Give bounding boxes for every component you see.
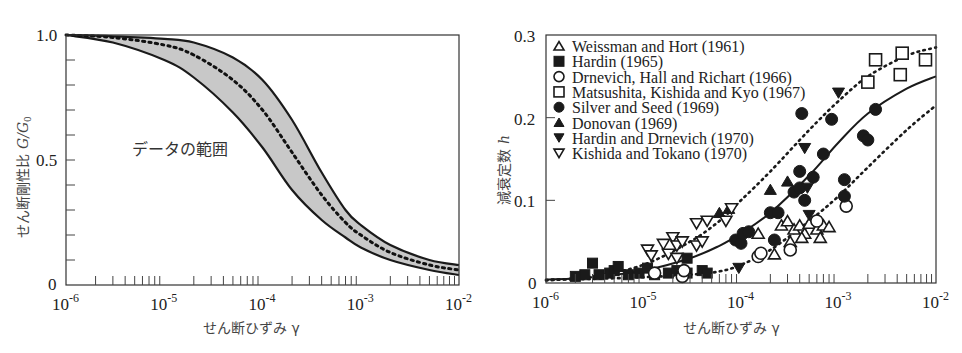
triangle-open-marker-icon bbox=[554, 42, 564, 51]
circle-filled-marker-icon bbox=[838, 190, 850, 202]
x-tick-label: 10-3 bbox=[347, 291, 374, 314]
x-tick-label: 10-3 bbox=[825, 289, 852, 312]
circle-filled-marker-icon bbox=[768, 234, 780, 246]
circle-filled-marker-icon bbox=[826, 113, 838, 125]
square-open-marker-icon bbox=[870, 54, 882, 66]
square-open-marker-icon bbox=[896, 47, 908, 59]
circle-open-marker-icon bbox=[678, 265, 690, 277]
circle-filled-marker-icon bbox=[838, 174, 850, 186]
right-y-axis-title: 減衰定数h bbox=[496, 135, 512, 205]
right-ytick-02: 0.2 bbox=[514, 110, 535, 129]
circle-open-marker-icon bbox=[811, 215, 823, 227]
x-tick-label: 10-4 bbox=[249, 291, 276, 314]
circle-filled-marker-icon bbox=[772, 207, 784, 219]
triangle-down-filled-marker-icon bbox=[733, 263, 745, 273]
circle-open-marker-icon bbox=[649, 267, 661, 279]
circle-open-marker-icon bbox=[755, 247, 767, 259]
right-ytick-0: 0 bbox=[528, 274, 537, 293]
left-chart: 1.0 0.5 0 10-610-510-410-310-2 データの範囲 せん… bbox=[15, 26, 472, 336]
circle-filled-marker-icon bbox=[870, 103, 882, 115]
triangle-filled-marker-icon bbox=[554, 118, 564, 127]
mean-curve bbox=[66, 35, 459, 270]
triangle-down-open-marker-icon bbox=[701, 216, 713, 226]
circle-filled-marker-icon bbox=[743, 226, 755, 238]
circle-filled-marker-icon bbox=[794, 165, 806, 177]
left-ytick-1: 1.0 bbox=[36, 26, 57, 45]
triangle-down-open-marker-icon bbox=[720, 216, 732, 226]
square-filled-marker-icon bbox=[594, 270, 604, 280]
legend: Weissman and Hort (1961)Hardin (1965)Drn… bbox=[554, 38, 805, 163]
triangle-down-open-marker-icon bbox=[691, 219, 703, 229]
right-x-tick-labels: 10-610-510-410-310-2 bbox=[532, 289, 949, 312]
circle-filled-marker-icon bbox=[799, 194, 811, 206]
right-ytick-03: 0.3 bbox=[514, 27, 535, 46]
left-plot-frame bbox=[66, 35, 459, 285]
data-range-band bbox=[66, 35, 459, 275]
lower-bound-curve bbox=[66, 35, 459, 275]
x-tick-label: 10-6 bbox=[532, 289, 559, 312]
circle-filled-marker-icon bbox=[807, 171, 819, 183]
square-filled-marker-icon bbox=[613, 261, 623, 271]
square-open-marker-icon bbox=[862, 76, 874, 88]
left-x-tick-labels: 10-610-510-410-310-2 bbox=[52, 291, 472, 314]
circle-filled-marker-icon bbox=[817, 148, 829, 160]
x-tick-label: 10-2 bbox=[922, 289, 949, 312]
triangle-filled-marker-icon bbox=[782, 176, 794, 186]
right-x-axis-title: せん断ひずみ γ bbox=[683, 320, 780, 336]
legend-label: Kishida and Tokano (1970) bbox=[572, 145, 747, 163]
square-filled-marker-icon bbox=[702, 268, 712, 278]
right-ytick-01: 0.1 bbox=[514, 192, 535, 211]
triangle-down-open-marker-icon bbox=[671, 253, 683, 263]
square-open-marker-icon bbox=[919, 54, 931, 66]
circle-filled-marker-icon bbox=[796, 108, 808, 120]
left-x-axis-title: せん断ひずみ γ bbox=[203, 320, 300, 336]
triangle-down-open-marker-icon bbox=[657, 239, 669, 249]
right-chart: 0.3 0.2 0.1 0 10-610-510-410-310-2 Weiss… bbox=[496, 27, 949, 336]
square-filled-marker-icon bbox=[554, 56, 564, 66]
left-ytick-05: 0.5 bbox=[36, 151, 57, 170]
triangle-down-filled-marker-icon bbox=[554, 134, 564, 143]
x-tick-label: 10-5 bbox=[150, 291, 177, 314]
x-tick-label: 10-2 bbox=[445, 291, 472, 314]
svg-text:減衰定数h: 減衰定数h bbox=[496, 135, 512, 205]
square-filled-marker-icon bbox=[580, 270, 590, 280]
square-filled-marker-icon bbox=[682, 253, 692, 263]
svg-text:せん断剛性比G/G0: せん断剛性比G/G0 bbox=[15, 116, 33, 238]
triangle-open-marker-icon bbox=[782, 216, 794, 226]
square-open-marker-icon bbox=[894, 69, 906, 81]
circle-open-marker-icon bbox=[554, 72, 564, 82]
triangle-down-open-marker-icon bbox=[554, 149, 564, 158]
x-tick-label: 10-5 bbox=[630, 289, 657, 312]
square-open-marker-icon bbox=[554, 87, 564, 97]
circle-filled-marker-icon bbox=[554, 102, 564, 112]
upper-bound-curve bbox=[66, 35, 459, 265]
triangle-filled-marker-icon bbox=[764, 184, 776, 194]
left-y-axis-title: せん断剛性比G/G0 bbox=[15, 116, 33, 238]
x-tick-label: 10-4 bbox=[727, 289, 754, 312]
triangle-down-filled-marker-icon bbox=[799, 143, 811, 153]
square-filled-marker-icon bbox=[588, 258, 598, 268]
legend-item: Kishida and Tokano (1970) bbox=[554, 145, 747, 163]
x-tick-label: 10-6 bbox=[52, 291, 79, 314]
circle-open-marker-icon bbox=[784, 244, 796, 256]
circle-filled-marker-icon bbox=[862, 134, 874, 146]
chart-canvas: 1.0 0.5 0 10-610-510-410-310-2 データの範囲 せん… bbox=[0, 0, 962, 353]
left-ytick-0: 0 bbox=[48, 275, 57, 294]
data-range-annotation: データの範囲 bbox=[132, 140, 228, 159]
